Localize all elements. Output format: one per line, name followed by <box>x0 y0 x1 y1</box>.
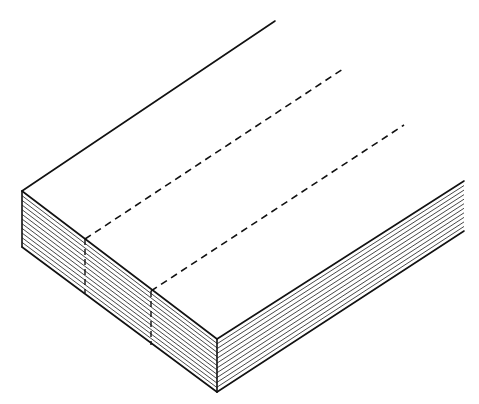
right-side-face <box>217 181 464 392</box>
sheet-line <box>217 195 464 354</box>
top-back-edge <box>22 21 275 191</box>
sheet-line <box>22 233 217 379</box>
sheet-line <box>217 208 464 368</box>
sheet-line <box>22 205 217 352</box>
sheet-line <box>22 238 217 383</box>
sheet-line <box>217 213 464 373</box>
bottom-right-edge <box>217 231 464 392</box>
sheet-line <box>22 219 217 366</box>
sheet-line <box>217 226 464 387</box>
sheet-line <box>217 222 464 382</box>
sheet-line <box>22 224 217 370</box>
sheet-line <box>22 228 217 374</box>
paper-stack-diagram <box>0 0 479 404</box>
sheet-line <box>217 204 464 363</box>
sheet-line <box>22 214 217 361</box>
sheet-line <box>217 186 464 344</box>
sheet-line <box>22 210 217 357</box>
sheet-line <box>22 200 217 348</box>
sheet-line <box>217 190 464 349</box>
fold-1-top-dashed <box>85 69 343 239</box>
top-front-right-edge <box>217 181 464 339</box>
paper-stack-illustration <box>0 0 479 404</box>
sheet-line <box>217 217 464 377</box>
